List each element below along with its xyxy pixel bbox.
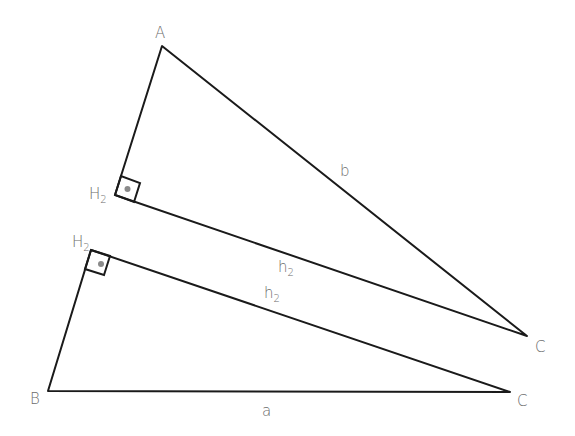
side-label-b: b	[340, 162, 350, 180]
vertex-label-c-lower: C	[517, 392, 527, 410]
upper-triangle-outline	[115, 46, 527, 336]
side-label-h2-upper: h2	[278, 258, 294, 278]
vertex-label-h2-lower: H2	[72, 233, 90, 253]
side-label-a: a	[262, 402, 271, 420]
vertex-label-h2-upper: H2	[89, 185, 107, 205]
lower-right-angle-marker	[85, 250, 110, 275]
upper-triangle: A H2 C b h2	[89, 24, 545, 356]
triangle-diagram: A H2 C b h2 H2 B C a h2	[0, 0, 575, 436]
right-angle-square-icon	[85, 250, 110, 275]
vertex-label-c-upper: C	[535, 338, 545, 356]
right-angle-dot-icon	[125, 186, 131, 192]
side-label-h2-lower: h2	[264, 284, 280, 304]
upper-right-angle-marker	[115, 176, 140, 202]
right-angle-dot-icon	[98, 261, 104, 267]
vertex-label-b: B	[30, 390, 40, 408]
vertex-label-a: A	[155, 24, 165, 42]
